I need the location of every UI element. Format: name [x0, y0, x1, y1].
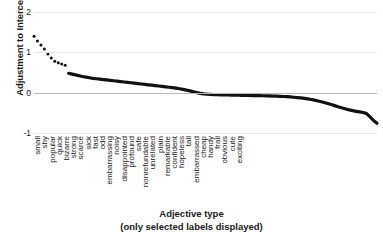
gridline	[34, 12, 377, 13]
y-axis-tick-label: -1	[23, 128, 31, 138]
y-axis-tick-label: 2	[26, 7, 31, 17]
chart-figure: Adjustment to Intercept 210-1 smallshypo…	[0, 0, 383, 248]
data-point	[39, 44, 42, 47]
gridline	[34, 52, 377, 53]
data-series-line	[34, 12, 377, 133]
data-point	[36, 40, 39, 43]
y-axis-tick-label: 0	[26, 88, 31, 98]
data-point	[53, 60, 56, 63]
plot-area: 210-1	[34, 12, 377, 133]
data-point	[50, 56, 53, 59]
data-point	[57, 61, 60, 64]
data-point	[43, 48, 46, 51]
data-point	[60, 63, 63, 66]
data-point	[33, 35, 36, 38]
x-axis-title-main: Adjective type	[0, 208, 383, 221]
x-axis-title-sub: (only selected labels displayed)	[0, 221, 383, 234]
y-axis-title: Adjustment to Intercept	[14, 0, 25, 109]
y-axis-tick-label: 1	[26, 47, 31, 57]
series-path	[69, 73, 377, 123]
zero-line	[34, 93, 377, 94]
x-axis-tick-label: exciting	[234, 136, 243, 163]
gridline	[34, 133, 377, 134]
data-point	[64, 64, 67, 67]
x-axis-title: Adjective type (only selected labels dis…	[0, 208, 383, 233]
x-axis-tick-labels: smallshypopularquickbizarrestrongscarces…	[34, 136, 377, 204]
